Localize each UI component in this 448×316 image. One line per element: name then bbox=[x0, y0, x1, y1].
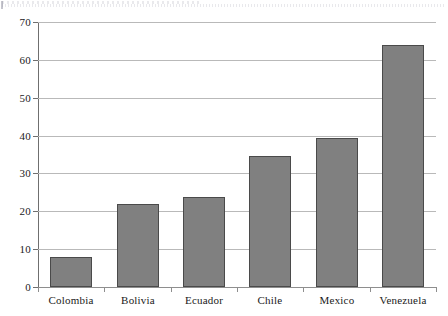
y-axis-tick-label: 0 bbox=[25, 282, 31, 293]
gridline bbox=[38, 22, 436, 23]
y-axis-tick bbox=[33, 211, 38, 212]
bar-bolivia bbox=[117, 204, 159, 287]
bar-venezuela bbox=[382, 45, 424, 287]
x-axis-tick bbox=[436, 287, 437, 292]
y-axis-tick-label: 10 bbox=[20, 244, 31, 255]
x-axis-tick bbox=[237, 287, 238, 292]
y-axis-tick-label: 70 bbox=[20, 17, 31, 28]
scan-artifact-line-secondary bbox=[2, 1, 202, 4]
bar-chile bbox=[249, 156, 291, 287]
y-axis-tick-label: 50 bbox=[20, 93, 31, 104]
y-axis-tick bbox=[33, 136, 38, 137]
gridline bbox=[38, 60, 436, 61]
x-axis-tick bbox=[171, 287, 172, 292]
y-axis-tick bbox=[33, 22, 38, 23]
y-axis-tick bbox=[33, 98, 38, 99]
x-axis-tick bbox=[370, 287, 371, 292]
y-axis-tick-label: 30 bbox=[20, 168, 31, 179]
y-axis-tick-label: 40 bbox=[20, 131, 31, 142]
gridline bbox=[38, 211, 436, 212]
x-axis-label-mexico: Mexico bbox=[320, 294, 355, 307]
gridline bbox=[38, 98, 436, 99]
bar-mexico bbox=[316, 138, 358, 287]
scan-artifact-corner-mark bbox=[1, 1, 3, 9]
bar-ecuador bbox=[183, 197, 225, 287]
x-axis-tick bbox=[104, 287, 105, 292]
x-axis-label-chile: Chile bbox=[258, 294, 283, 307]
gridline bbox=[38, 136, 436, 137]
y-axis-tick-label: 60 bbox=[20, 55, 31, 66]
y-axis-tick bbox=[33, 173, 38, 174]
y-axis-tick bbox=[33, 60, 38, 61]
x-axis-tick bbox=[303, 287, 304, 292]
x-axis-tick bbox=[38, 287, 39, 292]
x-axis-label-bolivia: Bolivia bbox=[121, 294, 155, 307]
x-axis-label-colombia: Colombia bbox=[49, 294, 94, 307]
x-axis-label-ecuador: Ecuador bbox=[185, 294, 223, 307]
scan-artifact-line bbox=[2, 4, 446, 7]
y-axis-tick bbox=[33, 249, 38, 250]
bar-colombia bbox=[50, 257, 92, 287]
bar-chart-figure: 010203040506070 ColombiaBoliviaEcuadorCh… bbox=[0, 0, 448, 316]
y-axis-tick-label: 20 bbox=[20, 206, 31, 217]
gridline bbox=[38, 173, 436, 174]
gridline bbox=[38, 249, 436, 250]
x-axis-label-venezuela: Venezuela bbox=[380, 294, 427, 307]
